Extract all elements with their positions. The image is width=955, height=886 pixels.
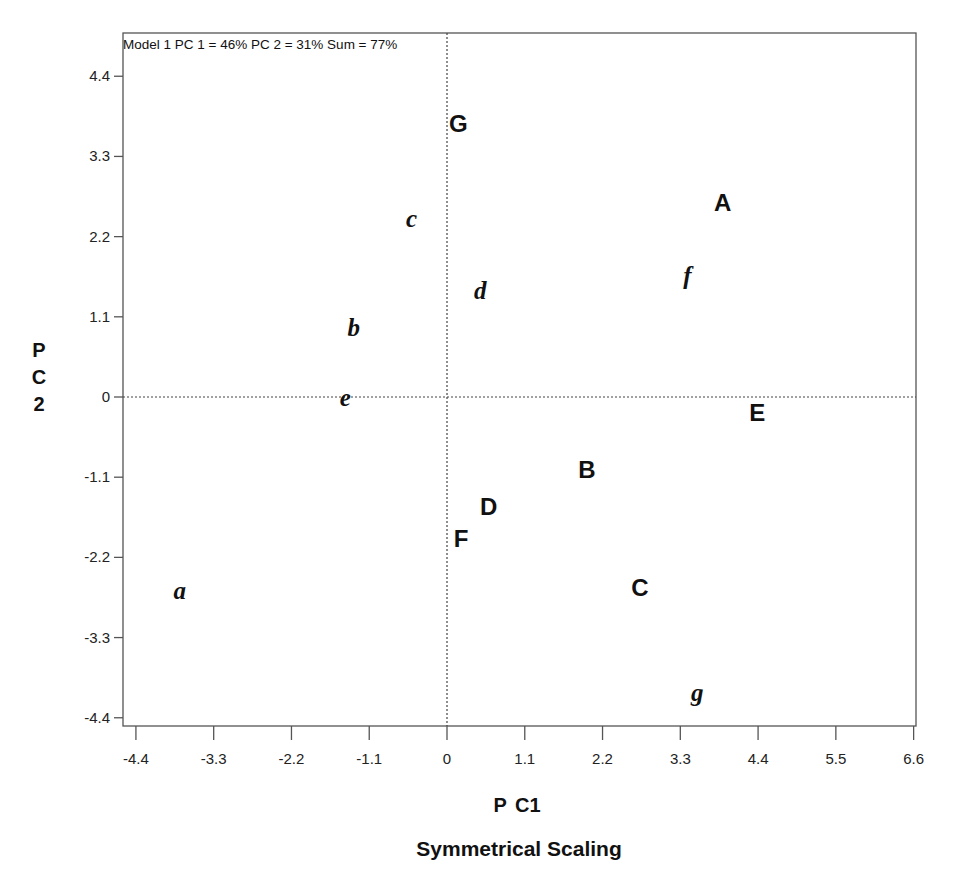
y-tick-label: 4.4 xyxy=(89,67,110,84)
x-tick-label: 6.6 xyxy=(903,750,924,767)
model-summary-text: Model 1 PC 1 = 46% PC 2 = 31% Sum = 77% xyxy=(123,37,397,52)
point-label-a: a xyxy=(174,577,187,604)
x-tick-label: -2.2 xyxy=(279,750,305,767)
x-tick-label: -1.1 xyxy=(356,750,382,767)
x-tick-label: 5.5 xyxy=(825,750,846,767)
y-axis-title-char: 2 xyxy=(33,393,44,415)
x-tick-label: 0 xyxy=(443,750,451,767)
y-tick-label: 1.1 xyxy=(89,308,110,325)
point-label-b: b xyxy=(347,314,360,341)
x-tick-label: 4.4 xyxy=(748,750,769,767)
x-axis-title: P C1 xyxy=(493,794,540,816)
point-label-f: f xyxy=(683,262,694,289)
point-label-A: A xyxy=(714,189,731,216)
point-label-D: D xyxy=(480,493,497,520)
data-labels: ABCDEFGabcdefg xyxy=(174,110,766,706)
y-axis-title: PC2 xyxy=(32,339,46,415)
y-tick-label: -1.1 xyxy=(84,468,110,485)
point-label-B: B xyxy=(578,456,595,483)
point-label-F: F xyxy=(454,525,469,552)
y-axis-title-char: P xyxy=(32,339,45,361)
point-label-e: e xyxy=(340,384,351,411)
reference-lines xyxy=(123,33,916,726)
y-tick-label: 0 xyxy=(102,388,110,405)
x-tick-label: -4.4 xyxy=(123,750,149,767)
x-tick-label: 2.2 xyxy=(592,750,613,767)
point-label-g: g xyxy=(690,679,704,706)
point-label-d: d xyxy=(474,277,487,304)
plot-frame xyxy=(123,33,916,726)
point-label-C: C xyxy=(631,574,648,601)
y-axis: 4.43.32.21.10-1.1-2.2-3.3-4.4 xyxy=(84,67,123,726)
chart-subtitle: Symmetrical Scaling xyxy=(416,837,621,860)
x-axis: -4.4-3.3-2.2-1.101.12.23.34.45.56.6 xyxy=(123,726,924,767)
point-label-c: c xyxy=(406,205,417,232)
y-tick-label: 2.2 xyxy=(89,228,110,245)
y-axis-title-char: C xyxy=(32,366,46,388)
x-tick-label: 1.1 xyxy=(514,750,535,767)
x-tick-label: 3.3 xyxy=(670,750,691,767)
y-tick-label: -3.3 xyxy=(84,629,110,646)
point-label-G: G xyxy=(449,110,468,137)
y-tick-label: 3.3 xyxy=(89,147,110,164)
x-tick-label: -3.3 xyxy=(201,750,227,767)
pca-biplot: 4.43.32.21.10-1.1-2.2-3.3-4.4 -4.4-3.3-2… xyxy=(0,0,955,886)
point-label-E: E xyxy=(749,399,765,426)
y-tick-label: -2.2 xyxy=(84,548,110,565)
y-tick-label: -4.4 xyxy=(84,709,110,726)
